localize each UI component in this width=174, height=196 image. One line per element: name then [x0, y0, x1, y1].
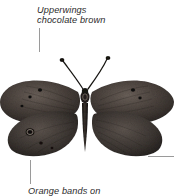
- butterfly-illustration: [0, 40, 174, 160]
- figure-canvas: Upperwings chocolate brown Orange bands …: [0, 0, 174, 196]
- ocellus: [26, 128, 35, 136]
- butterfly-body: [80, 88, 89, 152]
- annotation-label-upperwings: Upperwings chocolate brown: [37, 5, 105, 26]
- antenna-club-right: [106, 56, 111, 60]
- annotation-label-orange-bands: Orange bands on: [28, 186, 101, 196]
- antenna-club-left: [60, 58, 65, 62]
- antennae: [63, 59, 107, 89]
- leader-line-bottom: [30, 160, 31, 184]
